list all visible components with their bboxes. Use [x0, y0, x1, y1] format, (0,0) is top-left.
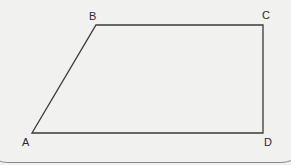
vertex-label-b: B: [89, 10, 96, 22]
trapezoid-ABCD: [32, 25, 263, 133]
vertex-label-a: A: [22, 136, 29, 148]
vertex-label-c: C: [262, 9, 270, 21]
vertex-label-d: D: [264, 136, 272, 148]
trapezoid-diagram: [0, 0, 291, 165]
